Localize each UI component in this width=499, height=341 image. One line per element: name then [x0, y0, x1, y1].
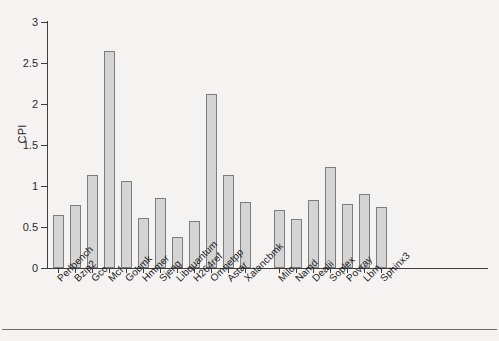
plot-area [47, 22, 488, 268]
cpi-bar-chart: CPI 00.511.522.53 PerlbenchBzip2GccMcfGo… [0, 0, 499, 341]
y-tick-label: 0 [32, 262, 38, 274]
y-tick-label: 2.5 [23, 57, 38, 69]
y-tick-mark [41, 268, 47, 269]
bottom-divider [2, 329, 497, 330]
bar [274, 210, 285, 268]
y-tick-label: 0.5 [23, 221, 38, 233]
bar [325, 167, 336, 268]
bar [104, 51, 115, 268]
y-tick-label: 1.5 [23, 139, 38, 151]
bar [53, 215, 64, 268]
bar [121, 181, 132, 268]
y-tick-label: 1 [32, 180, 38, 192]
bar [291, 219, 302, 268]
y-tick-label: 2 [32, 98, 38, 110]
bar [376, 207, 387, 269]
y-tick-label: 3 [32, 16, 38, 28]
